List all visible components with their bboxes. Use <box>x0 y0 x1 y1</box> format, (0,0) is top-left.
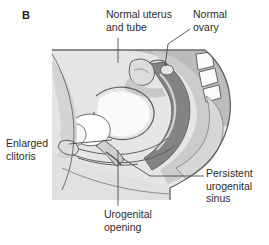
figure-panel-b: B Normal uterus and tube Normal ovary En… <box>0 0 269 245</box>
ovary <box>161 65 174 75</box>
label-urogenital-opening: Urogenital opening <box>104 208 182 233</box>
label-normal-uterus-and-tube: Normal uterus and tube <box>106 8 184 33</box>
label-persistent-urogenital-sinus: Persistent urogenital sinus <box>206 167 268 205</box>
label-enlarged-clitoris: Enlarged clitoris <box>6 137 68 162</box>
label-normal-ovary: Normal ovary <box>193 8 251 33</box>
panel-letter-b: B <box>22 10 30 21</box>
